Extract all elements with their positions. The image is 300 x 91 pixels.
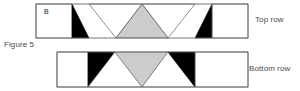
figure-caption: Figure 5 <box>4 40 34 50</box>
bottom-row-group <box>57 52 248 87</box>
bottom-row-label: Bottom row <box>249 64 290 74</box>
cell-label-c: C <box>66 26 71 34</box>
top-row-label: Top row <box>255 15 284 25</box>
cell-label-b: B <box>44 8 49 16</box>
bottom-white-square-left <box>57 52 88 87</box>
top-white-square-right <box>212 4 248 38</box>
